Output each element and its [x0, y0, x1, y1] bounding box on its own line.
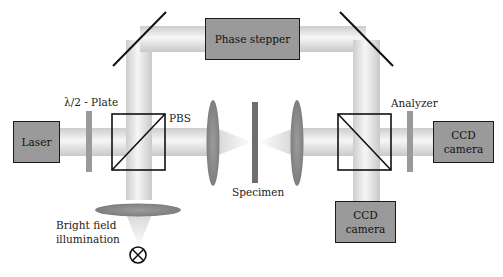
objective-lens-left: [207, 100, 220, 186]
ccd-right-line1: CCD: [451, 128, 476, 142]
focus-cone-left: [216, 128, 252, 156]
phase-stepper-label: Phase stepper: [215, 32, 291, 46]
half-wave-plate-label: λ/2 - Plate: [64, 96, 118, 110]
condenser-lens: [95, 204, 181, 217]
ccd-camera-right-box: CCD camera: [433, 121, 494, 163]
bright-field-line1: Bright field: [56, 219, 111, 233]
objective-lens-right: [291, 100, 304, 186]
optical-setup-diagram: Laser Phase stepper CCD camera CCD camer…: [0, 0, 503, 277]
analyzer-plate: [407, 111, 413, 172]
specimen-slide: [252, 102, 258, 183]
focus-cone-right: [258, 128, 294, 156]
lamp-cross-circle-icon: [130, 247, 146, 263]
beam-left-vertical: [126, 40, 152, 200]
bright-field-line2: illumination: [56, 233, 111, 247]
specimen-label: Specimen: [232, 186, 284, 200]
bright-field-label: Bright field illumination: [56, 219, 111, 246]
phase-stepper-box: Phase stepper: [205, 18, 300, 60]
ccd-camera-bottom-box: CCD camera: [335, 201, 396, 243]
ccd-bottom-line1: CCD: [353, 208, 378, 222]
ccd-bottom-line2: camera: [346, 222, 386, 236]
beam-right-vertical: [353, 40, 380, 202]
laser-box: Laser: [13, 121, 60, 163]
illumination-cone: [126, 214, 152, 247]
laser-label: Laser: [22, 135, 52, 149]
pbs-label: PBS: [169, 112, 191, 126]
ccd-right-line2: camera: [444, 142, 484, 156]
half-wave-plate: [86, 111, 92, 172]
analyzer-label: Analyzer: [391, 97, 438, 111]
